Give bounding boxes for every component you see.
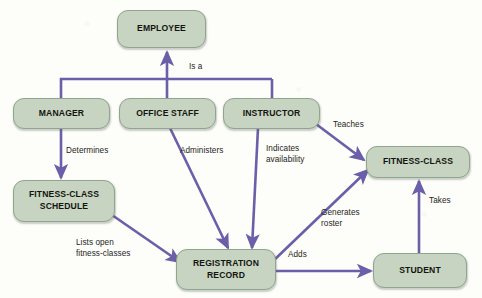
- node-fitness-class-schedule-label: FITNESS-CLASS SCHEDULE: [29, 189, 99, 212]
- node-employee-label: EMPLOYEE: [137, 23, 186, 35]
- edge-label-lists-open-fitness-classes: Lists open fitness-classes: [76, 237, 130, 259]
- node-manager[interactable]: MANAGER: [13, 98, 110, 129]
- edge-label-determines: Determines: [66, 145, 108, 156]
- node-registration-record[interactable]: REGISTRATION RECORD: [176, 249, 276, 290]
- edge-label-teaches: Teaches: [333, 119, 364, 130]
- edge-label-generates-roster: Generates roster: [321, 207, 360, 229]
- node-instructor-label: INSTRUCTOR: [243, 108, 301, 120]
- edge-label-takes: Takes: [429, 195, 451, 206]
- node-fitness-class-label: FITNESS-CLASS: [383, 156, 453, 168]
- node-employee[interactable]: EMPLOYEE: [117, 10, 206, 48]
- node-fitness-class[interactable]: FITNESS-CLASS: [366, 146, 470, 178]
- edge-instructor-indicates-registration: [252, 128, 258, 248]
- node-office-staff[interactable]: OFFICE STAFF: [119, 98, 216, 129]
- entity-relationship-diagram: EMPLOYEE MANAGER OFFICE STAFF INSTRUCTOR…: [0, 0, 482, 298]
- node-instructor[interactable]: INSTRUCTOR: [223, 98, 320, 129]
- node-office-staff-label: OFFICE STAFF: [136, 108, 199, 120]
- edge-label-indicates-availability: Indicates availability: [266, 143, 304, 165]
- edge-label-adds: Adds: [288, 249, 307, 260]
- node-registration-record-label: REGISTRATION RECORD: [193, 258, 259, 281]
- node-fitness-class-schedule[interactable]: FITNESS-CLASS SCHEDULE: [13, 180, 115, 222]
- edge-label-administers: Administers: [180, 145, 223, 156]
- edge-label-is-a: Is a: [189, 61, 202, 72]
- node-manager-label: MANAGER: [39, 108, 84, 120]
- node-student-label: STUDENT: [399, 265, 441, 277]
- node-student[interactable]: STUDENT: [373, 253, 467, 288]
